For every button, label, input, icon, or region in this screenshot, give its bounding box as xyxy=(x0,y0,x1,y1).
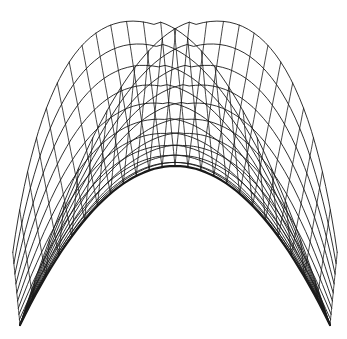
mesh-line xyxy=(175,22,189,166)
mesh-line xyxy=(304,172,322,277)
mesh-line xyxy=(188,38,201,171)
mesh-line xyxy=(46,108,71,237)
mesh-line xyxy=(149,38,162,171)
mesh-line xyxy=(13,252,20,325)
mesh-line xyxy=(188,22,207,167)
mesh-line xyxy=(330,252,337,325)
mesh-line xyxy=(110,87,121,193)
mesh-line xyxy=(19,145,330,325)
wireframe-figure xyxy=(0,0,347,339)
mesh-lines xyxy=(13,21,337,325)
mesh-line xyxy=(20,210,33,300)
mesh-line xyxy=(13,21,330,325)
mesh-line xyxy=(123,67,135,183)
mesh-line xyxy=(20,145,331,325)
mesh-line xyxy=(143,22,162,167)
mesh-line xyxy=(20,21,337,325)
mesh-line xyxy=(161,22,175,166)
wireframe-surface-plot xyxy=(0,0,347,339)
mesh-line xyxy=(317,210,330,300)
mesh-line xyxy=(278,108,303,237)
